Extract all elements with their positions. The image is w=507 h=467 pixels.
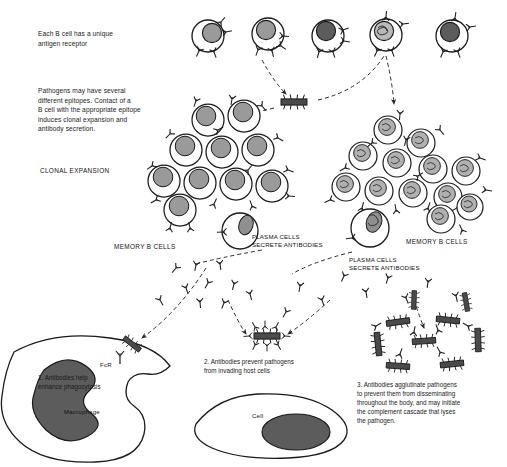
b-cell [164,194,196,226]
naive-b-cell-group [192,11,476,59]
label-plasma-cells-left: PLASMA CELLS SECRETE ANTIBODIES [252,233,323,249]
caption-receptor: Each B cell has a unique antigen recepto… [38,29,188,48]
b-cell [332,173,360,201]
caption-epitopes: Pathogens may have several different epi… [38,86,198,134]
b-cell [170,134,202,166]
caption-step-1: 1. Antibodies help enhance phagocytosis [38,374,168,392]
b-cell [407,129,435,157]
b-cell [419,155,447,183]
naive-b-cell [370,11,409,58]
b-cell [184,167,216,199]
label-fcr: FcR [100,361,112,369]
naive-b-cell [436,12,476,59]
label-host-cell: Cell [252,412,263,420]
naive-b-cell [252,18,289,58]
b-cell [383,149,411,177]
b-cell [349,142,377,170]
antibody-coated-pathogen [243,321,290,352]
b-cell [365,177,393,205]
b-cell [256,170,288,202]
b-cell [206,136,238,168]
caption-step-2: 2. Antibodies prevent pathogens from inv… [204,358,364,376]
b-cell [242,134,274,166]
b-cell [374,116,402,144]
agglutinated-pathogen-cluster [370,290,485,373]
plasma-cell-right [346,209,389,247]
b-cell [452,157,480,185]
clonal-expansion-right-cluster [323,110,492,235]
label-memory-b-cells-right: MEMORY B CELLS [406,238,468,245]
label-macrophage: Macrophage [64,408,100,416]
naive-b-cell [312,20,350,59]
label-memory-b-cells-left: MEMORY B CELLS [114,243,176,250]
b-cell [228,100,260,132]
b-cell [427,205,455,233]
macrophage-panel [1,333,170,462]
caption-step-3: 3. Antibodies agglutinate pathogens to p… [357,381,507,426]
b-cell [220,168,252,200]
label-clonal-expansion: CLONAL EXPANSION [40,167,110,174]
naive-b-cell [192,15,233,59]
b-cell [148,165,180,197]
b-cell [399,179,427,207]
label-plasma-cells-right: PLASMA CELLS SECRETE ANTIBODIES [349,256,420,272]
figure-canvas: Each B cell has a unique antigen recepto… [0,0,507,467]
b-cell [457,194,483,220]
host-cell [195,394,347,458]
pathogen-rod [281,94,307,109]
